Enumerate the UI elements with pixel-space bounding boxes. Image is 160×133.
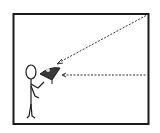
angled-sightline: [58, 15, 147, 63]
clinometer: [40, 68, 60, 84]
angled-arrowhead-icon: [57, 59, 63, 64]
person-head: [26, 65, 36, 79]
diagram-canvas: [0, 0, 160, 133]
diagram: [0, 0, 160, 133]
